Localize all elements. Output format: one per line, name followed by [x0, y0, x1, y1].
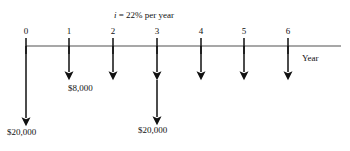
- tick-label-4: 4: [199, 27, 204, 36]
- diagram-canvas: [0, 0, 350, 151]
- tick-label-3: 3: [155, 27, 160, 36]
- tick-label-5: 5: [242, 27, 247, 36]
- tick-label-2: 2: [111, 27, 116, 36]
- tick-label-0: 0: [24, 27, 29, 36]
- tick-label-6: 6: [286, 27, 291, 36]
- cash-flow-arrows: [26, 46, 288, 118]
- amount-label-20000-year3: $20,000: [138, 126, 167, 135]
- cash-flow-diagram: i = 22% per year 0 1: [0, 0, 350, 151]
- axis-label-year: Year: [302, 54, 319, 63]
- tick-label-1: 1: [67, 27, 72, 36]
- amount-label-20000-year0: $20,000: [7, 128, 36, 137]
- amount-label-8000: $8,000: [68, 84, 93, 93]
